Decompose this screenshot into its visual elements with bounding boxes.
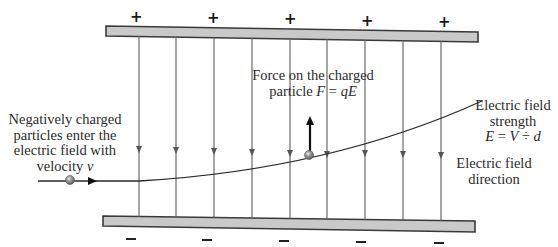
force-label: Force on the charged particle F = qE <box>238 68 388 99</box>
entry-label-line2: particles enter the <box>0 128 130 144</box>
force-arrow-icon <box>306 116 314 125</box>
electric-field-lines <box>136 37 444 221</box>
field-direction-arrow-icon <box>173 147 179 154</box>
plus-sign: + <box>284 12 297 27</box>
minus-sign <box>356 241 366 243</box>
field-direction-arrow-icon <box>136 146 142 153</box>
entry-label-line3: electric field with <box>0 143 130 159</box>
minus-sign <box>279 240 289 242</box>
entry-label: Negatively charged particles enter the e… <box>0 112 130 174</box>
field-direction-arrow-icon <box>287 150 293 157</box>
field-direction-arrow-icon <box>400 151 406 158</box>
field-strength-line2: strength <box>468 114 558 130</box>
entry-label-line4: velocity v <box>0 159 130 175</box>
plus-sign: + <box>130 10 143 25</box>
field-direction-label: Electric field direction <box>444 156 544 187</box>
plus-sign: + <box>438 15 451 30</box>
incoming-particle <box>66 176 75 185</box>
entry-label-line1: Negatively charged <box>0 112 130 128</box>
negative-plate <box>103 216 475 232</box>
velocity-arrow-icon <box>88 177 97 185</box>
field-direction-arrow-icon <box>249 149 255 156</box>
plus-sign: + <box>207 11 220 26</box>
deflected-particle <box>305 151 314 160</box>
field-direction-line1: Electric field <box>444 156 544 172</box>
field-strength-line1: Electric field <box>468 98 558 114</box>
positive-plate <box>106 26 478 42</box>
field-direction-arrow-icon <box>211 148 217 155</box>
field-direction-arrow-icon <box>362 150 368 157</box>
plus-sign: + <box>361 14 374 29</box>
minus-sign <box>126 238 136 240</box>
field-strength-label: Electric field strength E = V ÷ d <box>468 98 558 145</box>
field-direction-line2: direction <box>444 172 544 188</box>
minus-sign <box>434 242 444 244</box>
force-label-line1: Force on the charged <box>238 68 388 84</box>
force-label-line2: particle F = qE <box>238 84 388 100</box>
minus-sign <box>202 239 212 241</box>
field-strength-formula: E = V ÷ d <box>468 129 558 145</box>
